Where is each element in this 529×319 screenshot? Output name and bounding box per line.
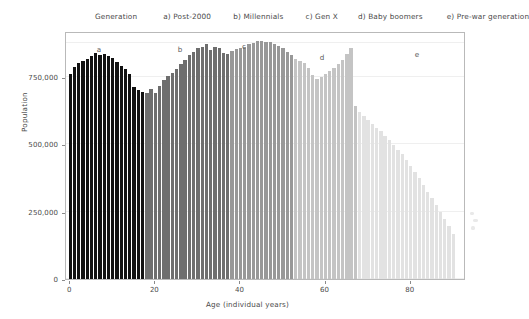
x-tick-mark xyxy=(325,281,326,284)
bar xyxy=(69,74,72,279)
bar xyxy=(192,52,195,279)
bar xyxy=(341,60,344,279)
bar xyxy=(375,128,378,279)
bar xyxy=(401,154,404,279)
bar xyxy=(103,54,106,279)
bar xyxy=(166,76,169,279)
bar xyxy=(366,120,369,279)
bar xyxy=(132,87,135,279)
y-tick-label: 750,000 xyxy=(12,74,58,82)
bar xyxy=(256,41,259,279)
group-marker-a: a xyxy=(97,45,101,54)
bar xyxy=(409,166,412,279)
bar xyxy=(239,48,242,279)
bar xyxy=(171,73,174,279)
bar xyxy=(345,54,348,279)
bar xyxy=(218,48,221,279)
bar xyxy=(349,48,352,279)
bar xyxy=(179,64,182,279)
bar xyxy=(115,62,118,279)
bar xyxy=(422,185,425,279)
y-tick-mark xyxy=(62,280,65,281)
bar xyxy=(392,145,395,279)
bar xyxy=(273,44,276,279)
bar xyxy=(201,47,204,279)
bar xyxy=(111,58,114,279)
scan-artifact xyxy=(473,219,478,222)
bar xyxy=(371,124,374,279)
bar xyxy=(320,77,323,279)
bar xyxy=(413,172,416,279)
bar xyxy=(86,59,89,280)
bar xyxy=(303,63,306,279)
bar xyxy=(149,89,152,279)
bar xyxy=(332,68,335,279)
bar xyxy=(439,212,442,279)
y-tick-label: 0 xyxy=(12,276,58,284)
bar xyxy=(452,234,455,279)
y-tick-label: 250,000 xyxy=(12,209,58,217)
bar xyxy=(107,56,110,279)
bar xyxy=(226,54,229,279)
bar xyxy=(362,116,365,279)
bar xyxy=(247,44,250,279)
y-axis-title: Population xyxy=(20,92,29,132)
bar xyxy=(158,86,161,279)
bar xyxy=(315,79,318,279)
bar xyxy=(354,106,357,279)
bar xyxy=(379,131,382,279)
bar xyxy=(73,67,76,279)
x-tick-label: 80 xyxy=(405,286,414,294)
bar xyxy=(358,112,361,279)
bar xyxy=(260,41,263,279)
x-tick-label: 40 xyxy=(235,286,244,294)
bar xyxy=(286,52,289,279)
x-tick-mark xyxy=(69,281,70,284)
bar xyxy=(230,51,233,279)
chart-legend: Generation a) Post-2000 b) Millennials c… xyxy=(0,8,495,24)
bar xyxy=(213,47,216,279)
bar xyxy=(90,56,93,279)
bar xyxy=(307,68,310,279)
legend-item-post-2000: a) Post-2000 xyxy=(163,12,211,21)
bar xyxy=(77,63,80,279)
bar xyxy=(243,47,246,279)
bar xyxy=(128,74,131,279)
bar xyxy=(145,93,148,279)
legend-title: Generation xyxy=(95,12,137,21)
bar xyxy=(183,60,186,279)
bar xyxy=(337,64,340,279)
legend-item-millennials: b) Millennials xyxy=(233,12,283,21)
bar xyxy=(81,61,84,279)
bar xyxy=(383,136,386,279)
bar xyxy=(196,48,199,279)
bar xyxy=(94,53,97,279)
x-tick-mark xyxy=(239,281,240,284)
bar xyxy=(188,55,191,279)
bar xyxy=(235,49,238,279)
bar xyxy=(209,50,212,279)
bar xyxy=(281,48,284,279)
y-tick-label: 500,000 xyxy=(12,141,58,149)
x-tick-label: 20 xyxy=(150,286,159,294)
group-marker-e: e xyxy=(415,50,419,59)
x-tick-label: 60 xyxy=(320,286,329,294)
bar xyxy=(311,75,314,279)
bar xyxy=(426,192,429,279)
bar xyxy=(418,178,421,279)
scan-artifact xyxy=(471,226,475,230)
bar xyxy=(222,53,225,279)
bar xyxy=(120,66,123,279)
x-tick-mark xyxy=(410,281,411,284)
scan-artifact xyxy=(470,212,474,215)
bar xyxy=(205,44,208,279)
legend-item-baby-boomers: d) Baby boomers xyxy=(358,12,423,21)
bar xyxy=(405,160,408,279)
bar xyxy=(137,90,140,279)
bar xyxy=(298,61,301,279)
group-marker-d: d xyxy=(320,53,325,62)
bar xyxy=(447,226,450,279)
bar xyxy=(388,140,391,279)
bar xyxy=(141,92,144,279)
bar xyxy=(175,69,178,279)
